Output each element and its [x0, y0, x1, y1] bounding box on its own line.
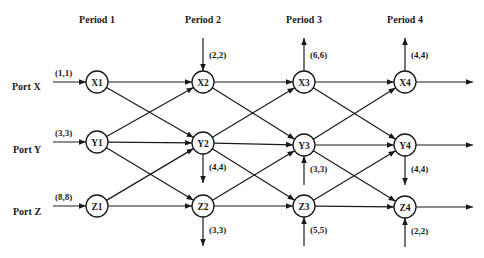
node-y1: Y1 — [86, 131, 108, 153]
period-1-label: Period 1 — [79, 14, 115, 25]
node-x3: X3 — [293, 71, 315, 93]
node-label: Z1 — [91, 202, 102, 212]
node-z3: Z3 — [293, 195, 315, 217]
edges — [106, 82, 395, 207]
node-label: Y4 — [399, 141, 411, 151]
node-label: X3 — [298, 78, 310, 88]
flow-x2-label: (2,2) — [209, 50, 226, 60]
period-3-label: Period 3 — [286, 14, 322, 25]
node-x2: X2 — [192, 71, 214, 93]
input-z1-label: (8,8) — [55, 192, 72, 202]
period-headers: Period 1 Period 2 Period 3 Period 4 — [79, 14, 423, 25]
node-label: Z4 — [399, 203, 410, 213]
node-label: Z3 — [298, 202, 309, 212]
node-label: Y2 — [197, 139, 209, 149]
flow-y2-label: (4,4) — [209, 162, 226, 172]
flow-z4-label: (2,2) — [411, 226, 428, 236]
port-y-label: Port Y — [13, 144, 42, 155]
node-x4: X4 — [394, 71, 416, 93]
node-y4: Y4 — [394, 134, 416, 156]
node-label: X1 — [91, 78, 103, 88]
period-4-label: Period 4 — [387, 14, 423, 25]
flow-x3-label: (6,6) — [310, 50, 327, 60]
node-y3: Y3 — [293, 134, 315, 156]
node-label: X2 — [197, 78, 209, 88]
node-z1: Z1 — [86, 195, 108, 217]
flow-y4-label: (4,4) — [411, 164, 428, 174]
flow-x4-label: (4,4) — [411, 50, 428, 60]
flow-z2-label: (3,3) — [209, 225, 226, 235]
period-2-label: Period 2 — [185, 14, 221, 25]
node-label: Y1 — [91, 138, 103, 148]
edge-y2-y3-arrow — [214, 143, 293, 145]
node-label: Z2 — [197, 202, 208, 212]
flow-z3-label: (5,5) — [310, 225, 327, 235]
node-label: Y3 — [298, 141, 310, 151]
node-z2: Z2 — [192, 195, 214, 217]
port-z-label: Port Z — [13, 206, 41, 217]
node-z4: Z4 — [394, 196, 416, 218]
time-space-network-diagram: Period 1 Period 2 Period 3 Period 4 Port… — [0, 0, 484, 258]
input-y1-label: (3,3) — [55, 128, 72, 138]
flow-y3-label: (3,3) — [310, 164, 327, 174]
node-label: X4 — [399, 78, 411, 88]
port-labels: Port X Port Y Port Z — [12, 81, 42, 217]
port-x-label: Port X — [12, 81, 41, 92]
input-x1-label: (1,1) — [55, 68, 72, 78]
node-x1: X1 — [86, 71, 108, 93]
edge-z3-z4-arrow — [315, 206, 394, 207]
edge-y1-y2-arrow — [108, 142, 192, 143]
node-y2: Y2 — [192, 132, 214, 154]
